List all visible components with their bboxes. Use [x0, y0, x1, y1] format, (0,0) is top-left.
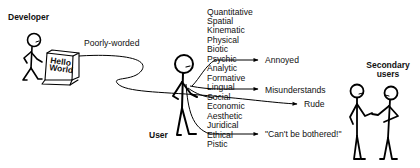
secondary-user-figure-2 [372, 87, 398, 160]
outcome-misunderstands: Misunderstands [265, 85, 326, 95]
aspect-item: Economic [207, 101, 245, 111]
aspect-item: Kinematic [207, 25, 245, 35]
developer-label: Developer [8, 12, 50, 22]
aspect-item: Lingual [207, 82, 235, 92]
secondary-user-1-head [351, 85, 364, 98]
screen-text-world: World [49, 62, 74, 75]
user-torso [182, 73, 183, 108]
developer-torso [31, 47, 32, 68]
outcome-cant-be-bothered: "Can't be bothered!" [265, 129, 342, 139]
developer-head [28, 34, 41, 47]
aspect-item: Biotic [207, 44, 229, 54]
user-head [175, 55, 193, 73]
secondary-user-figure-1 [350, 85, 372, 160]
outcome-annoyed: Annoyed [265, 55, 299, 65]
aspect-item: Juridical [207, 120, 239, 130]
poorly-worded-label: Poorly-worded [84, 38, 140, 48]
aspect-list: Quantitative Spatial Kinematic Physical … [207, 7, 253, 149]
diagram-canvas: Developer Hello World Poorly-worded User… [0, 0, 420, 168]
secondary-user-2-head [385, 87, 398, 100]
user-figure [173, 55, 197, 135]
outcome-rude: Rude [304, 99, 325, 109]
developer-figure [23, 34, 42, 81]
user-label: User [149, 130, 169, 140]
secondary-users-label-line2: users [377, 69, 400, 79]
aspect-item: Analytic [207, 63, 238, 73]
aspect-item: Pistic [207, 139, 228, 149]
